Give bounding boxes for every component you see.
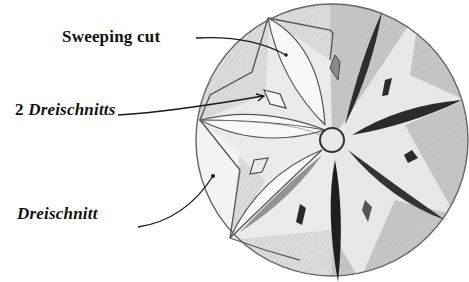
- label-dreischnitt: Dreischnitt: [17, 204, 98, 224]
- dreischnitt-leader: [138, 176, 213, 227]
- label-two-dreischnitts: 2 Dreischnitts: [15, 100, 116, 120]
- carving-diagram: Sweeping cut 2 Dreischnitts Dreischnitt: [0, 0, 469, 282]
- center-ring: [320, 128, 344, 152]
- label-count: 2: [15, 100, 28, 119]
- leader-dot: [211, 174, 215, 178]
- label-text: Sweeping cut: [62, 27, 160, 46]
- leader-dot: [284, 53, 288, 57]
- label-sweeping-cut: Sweeping cut: [62, 27, 160, 47]
- label-text: Dreischnitt: [17, 204, 98, 223]
- label-text: Dreischnitts: [28, 100, 115, 119]
